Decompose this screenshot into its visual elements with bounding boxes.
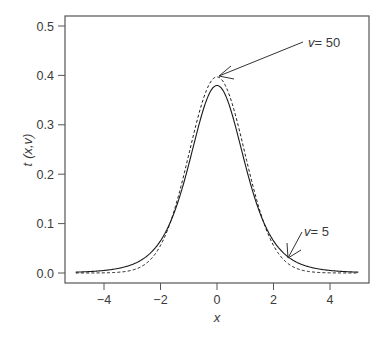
y-tick-label: 0.3 [37,118,54,132]
x-tick-label: 4 [327,293,334,307]
curve-v50 [76,77,359,273]
y-tick-label: 0.1 [37,217,54,231]
y-axis: 0.00.10.20.30.40.5 [37,20,65,281]
y-tick-label: 0.5 [37,20,54,34]
x-axis-title: x [213,310,221,325]
x-tick-label: −2 [153,293,167,307]
y-tick-label: 0.4 [37,69,54,83]
annotation-v5: v= 5 [287,224,329,258]
y-tick-label: 0.0 [37,267,54,281]
curve-v5 [76,85,359,272]
annotation-v50-label: v= 50 [308,35,340,50]
arrow-v50-head-lower [219,76,234,79]
y-axis-title: t(x,v) [20,134,35,167]
annotation-v50: v= 50 [219,35,340,79]
plot-frame [65,16,369,283]
annotation-v5-label: v= 5 [304,224,329,239]
arrow-v50-head-upper [219,66,231,76]
t-distribution-chart: 0.00.10.20.30.40.5 −4−2024 v= 50 v= 5 x … [0,0,386,341]
x-tick-label: −4 [97,293,111,307]
x-tick-label: 2 [270,293,277,307]
x-tick-label: 0 [214,293,221,307]
y-tick-label: 0.2 [37,168,54,182]
x-axis: −4−2024 [97,283,334,307]
arrow-v50-shaft [219,42,303,76]
